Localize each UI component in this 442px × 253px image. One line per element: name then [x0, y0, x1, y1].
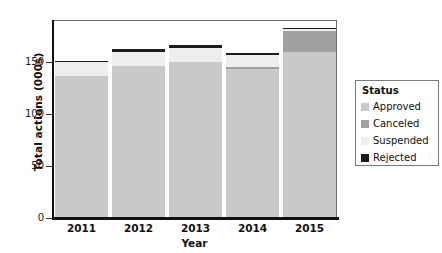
bar-segment-approved — [112, 66, 165, 218]
x-axis-tick-label: 2015 — [280, 222, 340, 234]
bar-group — [112, 49, 165, 218]
x-axis-tick-label: 2013 — [166, 222, 226, 234]
legend-item-label: Suspended — [373, 136, 429, 146]
bar-segment-suspended — [226, 55, 279, 67]
legend-item[interactable]: Rejected — [361, 150, 438, 166]
legend-item[interactable]: Suspended — [361, 133, 438, 149]
x-axis-tick-label: 2014 — [223, 222, 283, 234]
bar-group — [226, 53, 279, 218]
x-axis-tick-label: 2011 — [52, 222, 112, 234]
legend-swatch-icon — [361, 154, 369, 162]
legend-item-label: Approved — [373, 102, 421, 112]
bar-segment-suspended — [112, 52, 165, 67]
x-axis-line — [52, 217, 339, 220]
bar-segment-suspended — [169, 48, 222, 62]
bar-group — [55, 61, 108, 218]
bar-group — [283, 28, 336, 218]
bar-segment-approved — [226, 69, 279, 218]
legend-item-label: Rejected — [373, 153, 417, 163]
bar-segment-approved — [169, 62, 222, 218]
x-axis-title: Year — [52, 237, 337, 249]
legend-swatch-icon — [361, 103, 369, 111]
stacked-bar-chart: Total actions (000s) 050100150 201120122… — [0, 0, 442, 253]
legend-item[interactable]: Canceled — [361, 116, 438, 132]
legend-title: Status — [362, 85, 438, 96]
x-axis-tick-label: 2012 — [109, 222, 169, 234]
legend-item[interactable]: Approved — [361, 99, 438, 115]
bar-group — [169, 45, 222, 218]
legend-item-label: Canceled — [373, 119, 419, 129]
legend-swatch-icon — [361, 137, 369, 145]
bar-segment-approved — [55, 76, 108, 218]
legend-item-list: ApprovedCanceledSuspendedRejected — [361, 99, 438, 166]
bar-segment-canceled — [283, 31, 336, 52]
legend-swatch-icon — [361, 120, 369, 128]
legend: Status ApprovedCanceledSuspendedRejected — [355, 80, 439, 166]
bar-segment-suspended — [55, 62, 108, 76]
bar-segment-approved — [283, 52, 336, 218]
